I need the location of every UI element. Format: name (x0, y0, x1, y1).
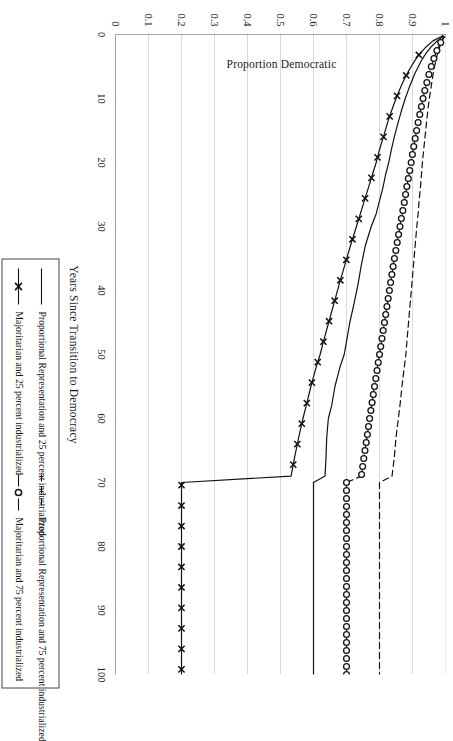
x-tick-label-30: 30 (95, 221, 106, 232)
x-tick-label-60: 60 (95, 413, 106, 424)
y-tick-label-0.5: 0.5 (275, 0, 286, 26)
legend-row-bottom: Majoritarian and 25 percent industrializ… (7, 267, 30, 679)
series-line-1 (379, 34, 445, 674)
legend-entry-3[interactable]: Majoritarian and 75 percent industrializ… (13, 473, 25, 679)
legend-label-3: Majoritarian and 75 percent industrializ… (13, 517, 24, 681)
chart-legend: Proportional Representation and 25 perce… (1, 258, 59, 688)
legend-sample-dashed-circle-icon (13, 473, 25, 511)
y-tick-label-0.1: 0.1 (143, 0, 154, 26)
axis-lines (115, 34, 445, 674)
x-tick-label-70: 70 (95, 477, 106, 488)
y-tick-label-0.4: 0.4 (242, 0, 253, 26)
x-tick-label-80: 80 (95, 541, 106, 552)
x-tick-label-0: 0 (95, 31, 106, 36)
data-series-layer (178, 34, 445, 674)
x-tick-label-20: 20 (95, 157, 106, 168)
legend-sample-dashed-icon (36, 473, 48, 511)
legend-row-top: Proportional Representation and 25 perce… (30, 267, 53, 679)
legend-label-2: Majoritarian and 25 percent industrializ… (13, 311, 24, 475)
x-tick-label-100: 100 (95, 666, 106, 682)
x-tick-label-40: 40 (95, 285, 106, 296)
series-markers-3 (343, 34, 445, 674)
x-tick-label-90: 90 (95, 605, 106, 616)
y-axis-title: Proportion Democratic (226, 57, 336, 69)
y-tick-label-0.6: 0.6 (308, 0, 319, 26)
x-axis-title: Years Since Transition to Democracy (67, 34, 79, 674)
gridlines (115, 34, 445, 674)
y-tick-label-0: 0 (110, 0, 121, 26)
y-tick-label-0.2: 0.2 (176, 0, 187, 26)
y-tick-label-1: 1 (440, 0, 451, 26)
chart-svg (115, 34, 445, 674)
plot-area: 0102030405060708090100 00.10.20.30.40.50… (115, 34, 445, 674)
series-markers-2 (178, 34, 445, 672)
y-tick-label-0.8: 0.8 (374, 0, 385, 26)
y-tick-label-0.3: 0.3 (209, 0, 220, 26)
x-tick-label-10: 10 (95, 93, 106, 104)
legend-label-1: Proportional Representation and 75 perce… (36, 517, 47, 741)
y-axis-title-wrapper: Proportion Democratic (111, 53, 451, 71)
y-tick-label-0.9: 0.9 (407, 0, 418, 26)
legend-sample-solid-icon (36, 267, 48, 305)
x-tick-label-50: 50 (95, 349, 106, 360)
legend-entry-0[interactable]: Proportional Representation and 25 perce… (36, 267, 48, 473)
y-tick-label-0.7: 0.7 (341, 0, 352, 26)
legend-sample-solid-x-icon (13, 267, 25, 305)
legend-entry-2[interactable]: Majoritarian and 25 percent industrializ… (13, 267, 25, 473)
series-line-3 (346, 34, 445, 674)
legend-entry-1[interactable]: Proportional Representation and 75 perce… (36, 473, 48, 679)
